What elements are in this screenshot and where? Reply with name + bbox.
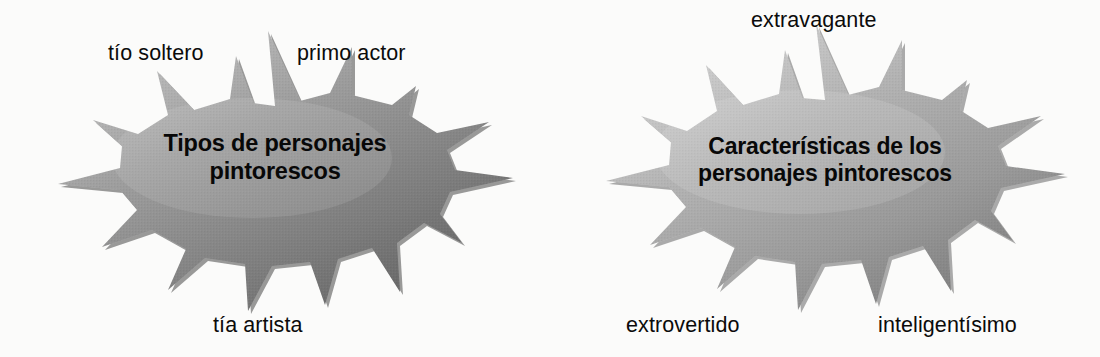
starburst-shape-left bbox=[0, 0, 550, 357]
starburst-shape-right bbox=[550, 0, 1100, 357]
starburst-diagram-right: Características de los personajes pintor… bbox=[550, 0, 1100, 357]
starburst-diagram-left: Tipos de personajes pintorescos tío solt… bbox=[0, 0, 550, 357]
callout-extravagante: extravagante bbox=[751, 8, 877, 33]
callout-primo-actor: primo actor bbox=[297, 41, 406, 66]
callout-inteligentisimo: inteligentísimo bbox=[878, 313, 1017, 338]
callout-extrovertido: extrovertido bbox=[626, 313, 740, 338]
callout-tia-artista: tía artista bbox=[213, 313, 303, 338]
callout-tio-soltero: tío soltero bbox=[108, 41, 204, 66]
diagram-canvas: Tipos de personajes pintorescos tío solt… bbox=[0, 0, 1100, 357]
